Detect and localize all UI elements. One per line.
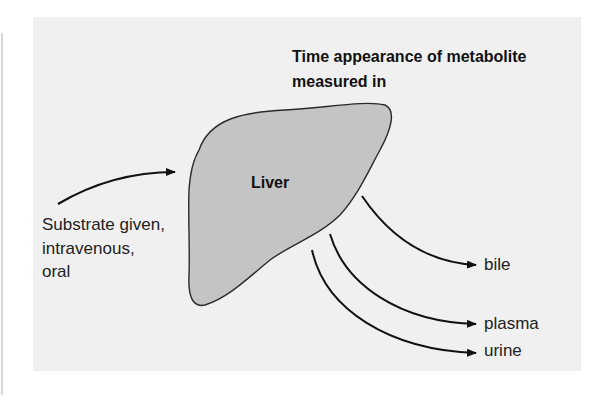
title-line-2: measured in <box>292 74 386 90</box>
source-line-1: Substrate given, <box>42 216 165 233</box>
destination-plasma: plasma <box>484 315 539 332</box>
liver-label: Liver <box>251 175 289 191</box>
urine-arrow <box>312 250 476 353</box>
input-arrow <box>58 172 175 204</box>
destination-urine: urine <box>484 342 522 359</box>
source-line-2: intravenous, <box>42 240 135 257</box>
destination-bile: bile <box>484 256 510 273</box>
bile-arrow <box>362 196 476 265</box>
source-line-3: oral <box>42 263 70 280</box>
liver-shape <box>189 103 392 305</box>
title-line-1: Time appearance of metabolite <box>292 49 526 65</box>
plasma-arrow <box>330 234 476 324</box>
